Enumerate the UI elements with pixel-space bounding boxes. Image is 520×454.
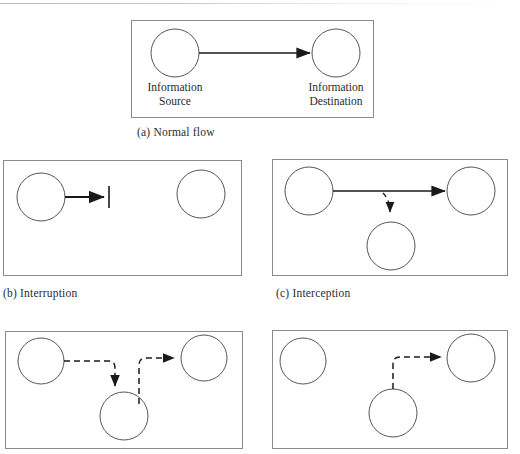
information-destination-node	[447, 167, 495, 215]
information-source-node	[18, 338, 64, 384]
panel-c-graphics	[273, 160, 509, 277]
caption-normal-flow: (a) Normal flow	[137, 126, 215, 138]
panel-d-graphics	[6, 332, 244, 450]
panel-e-graphics	[273, 331, 509, 450]
information-source-label-line1: Information	[131, 81, 219, 95]
attacker-node	[369, 389, 417, 437]
caption-interruption: (b) Interruption	[3, 287, 77, 299]
panel-interception	[272, 159, 508, 276]
interception-branch-arrow	[383, 193, 390, 212]
panel-fabrication	[272, 330, 508, 449]
caption-interception: (c) Interception	[276, 287, 350, 299]
information-destination-label: Information Destination	[288, 81, 384, 108]
information-source-label: Information Source	[131, 81, 219, 108]
information-destination-node	[312, 29, 360, 77]
information-source-label-line2: Source	[131, 95, 219, 109]
information-destination-node	[177, 170, 225, 218]
page-scan-edge	[0, 3, 520, 4]
information-destination-label-line1: Information	[288, 81, 384, 95]
fabrication-arrow	[393, 357, 441, 389]
panel-b-graphics	[4, 161, 243, 277]
panel-modification	[5, 331, 243, 449]
attacker-node	[100, 392, 148, 440]
figure-canvas: Information Source Information Destinati…	[0, 0, 520, 454]
attacker-node	[367, 222, 415, 270]
information-destination-node	[181, 335, 227, 381]
information-source-node	[280, 338, 326, 384]
information-source-node	[285, 167, 333, 215]
information-destination-label-line2: Destination	[288, 95, 384, 109]
information-source-node	[17, 173, 65, 221]
modification-inbound-arrow	[64, 361, 115, 386]
information-destination-node	[447, 334, 495, 382]
information-source-node	[151, 29, 199, 77]
panel-interruption	[3, 160, 242, 276]
modification-outbound-arrow	[139, 358, 174, 404]
